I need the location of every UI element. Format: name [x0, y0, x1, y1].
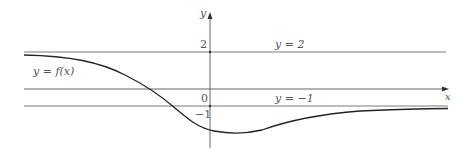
y-axis-arrow-icon	[208, 12, 213, 19]
function-curve	[24, 55, 448, 133]
curve-label: y = f(x)	[32, 65, 74, 78]
tick-label-neg1: −1	[195, 108, 211, 121]
asymptote-label-y2: y = 2	[274, 38, 304, 51]
tick-mark-neg1	[209, 105, 211, 107]
function-graph: y x 2 0 −1 y = 2 y = −1 y = f(x)	[0, 0, 470, 153]
tick-label-0: 0	[201, 92, 208, 105]
tick-mark-2	[209, 51, 211, 53]
x-axis-label: x	[445, 91, 451, 102]
y-axis-label: y	[199, 7, 207, 20]
tick-label-2: 2	[200, 38, 207, 51]
asymptote-label-yneg1: y = −1	[274, 92, 314, 105]
